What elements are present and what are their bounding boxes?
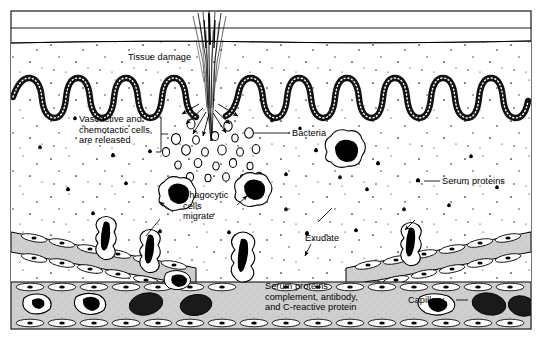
migrating-cell-icon [401, 223, 422, 266]
migrating-cell-icon [140, 230, 161, 273]
label-serum-proteins: Serum proteins [442, 176, 505, 187]
label-tissue-damage: Tissue damage [128, 52, 191, 63]
migrating-cell-icon [231, 232, 255, 282]
diagram-canvas: Tissue damage Vasoactive and chemotactic… [0, 0, 542, 340]
skin-surface [11, 28, 531, 43]
migrating-cell-icon [96, 217, 117, 260]
phagocyte-icon [235, 173, 272, 207]
migrating-cell-icon [164, 271, 190, 290]
leukocyte-icon [23, 294, 51, 314]
label-capillary: Capillary [408, 295, 444, 306]
label-phagocytic-cells-migrate: Phagocytic cells migrate [183, 190, 228, 222]
label-serum-proteins-complement: Serum proteins complement, antibody, and… [265, 281, 358, 313]
phagocyte-icon [325, 130, 365, 168]
leukocyte-icon [74, 293, 105, 314]
label-exudate: Exudate [305, 233, 339, 244]
label-vasoactive-chemotactic: Vasoactive and chemotactic cells are rel… [79, 114, 150, 146]
label-bacteria: Bacteria [292, 128, 326, 139]
